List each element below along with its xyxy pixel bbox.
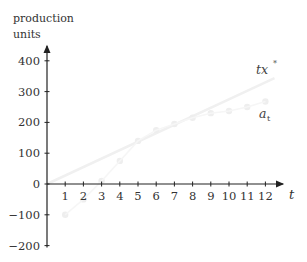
- x-tick-label: 11: [240, 189, 255, 203]
- x-tick-label: 7: [171, 189, 178, 203]
- series-label-a-t: a: [259, 106, 266, 121]
- x-tick-label: 1: [62, 189, 69, 203]
- x-tick-label: 6: [153, 189, 160, 203]
- y-tick-label: 300: [18, 85, 40, 99]
- y-tick-label: −200: [8, 239, 40, 253]
- series-label-a-t-sub: t: [267, 114, 271, 123]
- chart-canvas: −200−1000100200300400123456789101112ttx*…: [0, 0, 307, 262]
- x-tick-label: 8: [189, 189, 196, 203]
- series-tx-line: [47, 78, 275, 184]
- x-tick-label: 2: [80, 189, 87, 203]
- y-tick-label: 0: [33, 177, 40, 191]
- x-axis-label: t: [289, 187, 295, 202]
- x-tick-label: 3: [98, 189, 105, 203]
- x-tick-label: 9: [207, 189, 214, 203]
- x-tick-label: 12: [258, 189, 273, 203]
- series-label-tx-star-sup: *: [273, 59, 277, 68]
- y-tick-label: 200: [18, 115, 40, 129]
- y-tick-label: −100: [8, 208, 40, 222]
- y-tick-label: 400: [18, 54, 40, 68]
- series-label-tx-star: tx: [256, 62, 268, 77]
- x-tick-label: 4: [116, 189, 123, 203]
- x-tick-label: 5: [134, 189, 141, 203]
- x-tick-label: 10: [222, 189, 237, 203]
- y-tick-label: 100: [18, 146, 40, 160]
